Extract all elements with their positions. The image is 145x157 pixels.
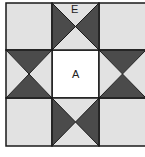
corner-square-bottom-right — [99, 98, 145, 146]
corner-square-top-left — [6, 3, 52, 50]
star-point-bottom — [52, 98, 99, 146]
quilt-block-diagram: E A — [5, 2, 145, 147]
corner-square-top-right — [99, 3, 145, 50]
star-point-left — [6, 50, 52, 98]
label-top-center: E — [71, 3, 78, 15]
corner-square-bottom-left — [6, 98, 52, 146]
star-point-right — [99, 50, 145, 98]
label-center: A — [72, 68, 79, 80]
